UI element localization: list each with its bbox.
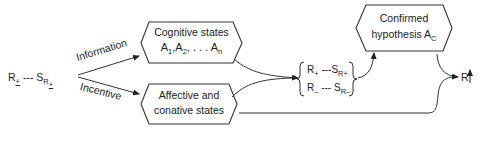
confirmed-line2-text: hypothesis A xyxy=(372,28,432,40)
an-sub: n xyxy=(218,47,222,56)
dashes: --- xyxy=(23,71,34,83)
affective-to-set-arrow xyxy=(232,78,292,97)
expectancy-row-negative: R– --- SR– xyxy=(307,82,350,98)
expectancy-brace-left xyxy=(297,62,304,96)
stimulus-response-pair: R+ --- SR+ xyxy=(8,71,53,91)
output-response: R xyxy=(461,71,469,83)
ellipsis: , . . . xyxy=(187,41,211,53)
row2-s: S xyxy=(334,82,341,93)
stimulus-subscript-sign: + xyxy=(49,80,53,89)
row2-dashes: --- xyxy=(321,82,331,93)
confirmed-to-response-arrow xyxy=(437,54,458,77)
cognitive-states-list: A1,A2, . . . An xyxy=(141,41,242,58)
cognitive-to-set-arrow xyxy=(235,60,298,78)
a1-sub: 1 xyxy=(168,47,172,56)
confirmed-line1: Confirmed xyxy=(356,12,452,24)
row1-s-sub-sign: + xyxy=(344,69,348,78)
row1-r-sign: + xyxy=(314,69,318,78)
expectancy-row-positive: R+ ---SR+ xyxy=(307,64,348,80)
a2: A xyxy=(175,41,182,53)
set-to-confirmed-arrow xyxy=(358,53,374,78)
row2-r-sign: – xyxy=(314,87,318,96)
response-sign: + xyxy=(16,77,20,86)
row2-s-sub-sign: – xyxy=(346,87,350,96)
confirmed-line2: hypothesis AC xyxy=(356,28,452,45)
an: A xyxy=(211,41,218,53)
a1: A xyxy=(161,41,168,53)
cognitive-states-title: Cognitive states xyxy=(141,26,242,38)
affective-line2: conative states xyxy=(141,104,237,116)
row1-dashes: --- xyxy=(321,64,331,75)
confirmed-subscript: C xyxy=(431,34,436,43)
response-symbol: R xyxy=(8,71,16,83)
affective-line1: Affective and xyxy=(141,89,237,101)
